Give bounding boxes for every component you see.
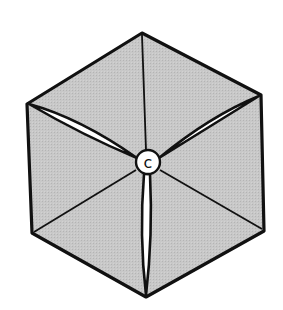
center-label: c [144, 153, 153, 172]
hexagon-diagram: c [0, 0, 283, 310]
center-point-marker: c [136, 150, 160, 174]
